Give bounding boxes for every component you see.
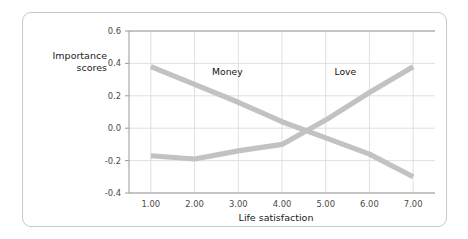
y-axis-tick-label: 0.2: [108, 91, 121, 101]
x-axis-tick-label: 1.00: [142, 199, 161, 209]
x-axis-tick-label: 6.00: [360, 199, 379, 209]
x-axis-title: Life satisfaction: [239, 212, 314, 223]
y-axis-tick-label: 0.6: [108, 26, 121, 36]
series-annotation-love: Love: [335, 66, 357, 77]
grid-lines: [129, 31, 435, 193]
y-axis-tick-label: 0.4: [108, 58, 121, 68]
x-axis-tick-label: 2.00: [185, 199, 204, 209]
x-axis-tick-label: 5.00: [316, 199, 335, 209]
x-axis-tick-label: 3.00: [229, 199, 248, 209]
axis-lines: [125, 31, 435, 193]
line-chart: 0.60.40.20.0-0.2-0.4 1.002.003.004.005.0…: [23, 13, 448, 228]
series-annotations: MoneyLove: [212, 66, 356, 77]
x-axis-tick-label: 4.00: [273, 199, 292, 209]
y-axis-title-line1: Importance: [53, 50, 108, 61]
y-axis-tick-labels: 0.60.40.20.0-0.2-0.4: [105, 26, 121, 198]
y-axis-title-line2: scores: [77, 62, 108, 73]
figure-card: 0.60.40.20.0-0.2-0.4 1.002.003.004.005.0…: [22, 12, 447, 227]
series-annotation-money: Money: [212, 66, 243, 77]
y-axis-tick-label: -0.4: [105, 188, 121, 198]
x-axis-tick-labels: 1.002.003.004.005.006.007.00: [142, 199, 423, 209]
y-axis-tick-label: 0.0: [108, 123, 121, 133]
y-axis-tick-label: -0.2: [105, 156, 121, 166]
x-axis-tick-label: 7.00: [404, 199, 423, 209]
